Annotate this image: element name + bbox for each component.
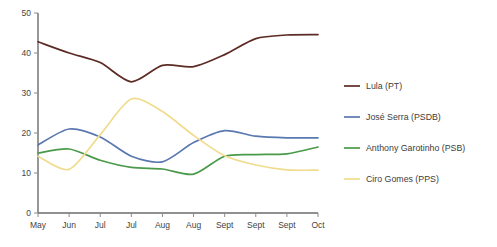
x-tick-label: Sept: [278, 220, 296, 230]
x-tick-label: May: [30, 220, 47, 230]
legend-label: Anthony Garotinho (PSB): [366, 143, 465, 153]
x-tick-label: Sept: [216, 220, 234, 230]
x-tick-label: Oct: [311, 220, 325, 230]
series-line: [38, 129, 318, 162]
chart-legend: Lula (PT)José Serra (PSDB)Anthony Garoti…: [344, 81, 465, 184]
x-tick-group: MayJunJulJulAugAugSeptSeptSeptOct: [30, 213, 325, 230]
legend-label: Ciro Gomes (PPS): [366, 174, 439, 184]
legend-label: Lula (PT): [366, 81, 402, 91]
y-tick-label: 0: [26, 208, 31, 218]
x-tick-label: Jul: [95, 220, 106, 230]
line-chart: 01020304050 MayJunJulJulAugAugSeptSeptSe…: [0, 0, 497, 247]
chart-canvas: 01020304050 MayJunJulJulAugAugSeptSeptSe…: [0, 0, 497, 247]
x-tick-label: Sept: [247, 220, 265, 230]
x-axis: MayJunJulJulAugAugSeptSeptSeptOct: [30, 213, 325, 230]
series-line: [38, 98, 318, 170]
y-tick-label: 20: [22, 128, 32, 138]
y-tick-group: 01020304050: [22, 8, 38, 218]
y-tick-label: 50: [22, 8, 32, 18]
x-tick-label: Jul: [126, 220, 137, 230]
y-axis: 01020304050: [22, 8, 38, 218]
series-group: [38, 35, 318, 175]
x-tick-label: Aug: [186, 220, 201, 230]
x-tick-label: Jun: [62, 220, 76, 230]
y-tick-label: 30: [22, 88, 32, 98]
y-tick-label: 10: [22, 168, 32, 178]
legend-label: José Serra (PSDB): [366, 112, 441, 122]
series-line: [38, 35, 318, 82]
y-tick-label: 40: [22, 48, 32, 58]
x-tick-label: Aug: [155, 220, 170, 230]
